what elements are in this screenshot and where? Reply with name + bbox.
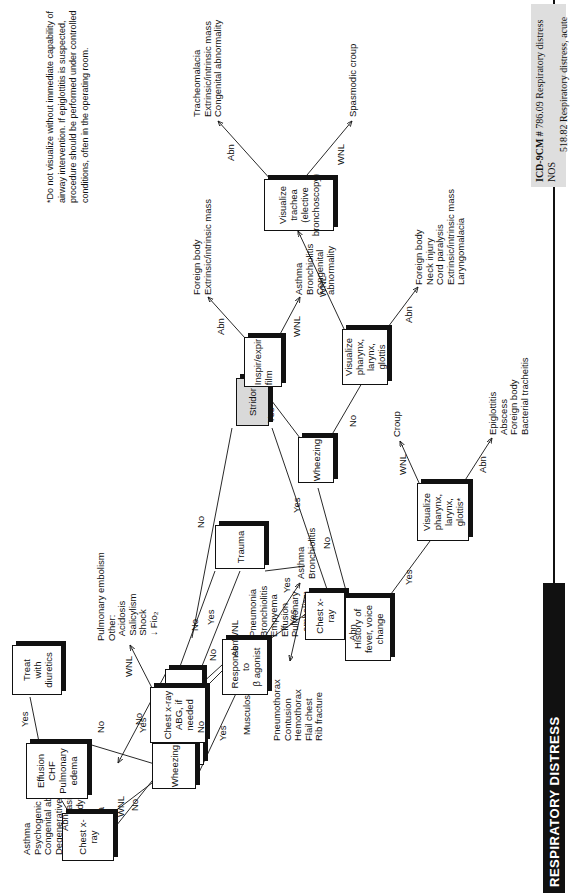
node-inspir-expir-label: Inspir/expir film [252,339,274,385]
edge-label-acute-yes: Yes [206,610,216,626]
leaf-cxr-trauma-abn-list: Pneumothorax Contusion Hemothorax Flail … [272,679,325,741]
node-wheezing-upper-label: Wheezing [169,745,180,787]
edge-label-cxr-upper-wnl: WNL [116,796,126,817]
node-treat-diuretics-label: Treat with diuretics [21,652,54,687]
node-visualize-plain-label: Visualize pharynx, larynx, glottis [343,332,387,382]
leaf-visualize-plain-abn-list: Foreign body Neck injury Cord paralysis … [414,189,467,285]
node-stridor-label: Stridor [247,388,258,416]
edge-label-trauma-yes: Yes [282,578,292,594]
edge-label-effusion-no: No [96,721,106,733]
edge-label-stridor-yes: Yes [292,498,302,514]
node-visualize-pharynx-star[interactable]: Visualize pharynx, larynx, glottis* [417,483,469,541]
edge-label-history-yes: Yes [404,570,414,586]
rotated-page-canvas: Stridor Acute onset Trauma Chest x-ray H… [0,0,575,893]
edge-label-cxr-upper-abn: Abn [60,814,70,831]
node-visualize-pharynx-plain[interactable]: Visualize pharynx, larynx, glottis [342,329,388,385]
node-chest-xray-trauma[interactable]: Chest x-ray [305,592,345,640]
edge-label-cxr-trauma-wnl: WNL [230,620,240,641]
edge-label-trachea-abn: Abn [226,144,236,161]
edge-label-beta-yes: Yes [288,610,298,626]
edge-label-visplain-abn: Abn [404,306,414,323]
edge-label-cxrabg-wnl: WNL [124,656,134,677]
node-chest-xray-trauma-label: Chest x-ray [314,595,336,637]
flowchart-canvas: Stridor Acute onset Trauma Chest x-ray H… [0,0,575,893]
node-wheezing-lower[interactable]: Wheezing [298,437,334,483]
node-visualize-star-label: Visualize pharynx, larynx, glottis* [421,486,465,538]
edge-label-visstar-wnl: WNL [398,454,408,475]
edge-label-wheezing-upper-no: No [130,799,140,811]
edge-label-beta-no: No [208,649,218,661]
node-visualize-trachea-label: Visualize trachea (elective bronchoscopy… [277,174,321,236]
node-effusion-label: Effusion CHF Pulmonary edema [35,748,79,793]
node-trauma[interactable]: Trauma [215,525,265,569]
node-chest-xray-abg[interactable]: Chest x-ray ABG, if needed [150,687,206,743]
edge-label-visplain-wnl: WNL [318,276,328,297]
edge-label-wheezing-upper-yes: Yes [218,726,228,742]
edge-label-inspir-abn: Abn [216,318,226,335]
node-wheezing-lower-label: Wheezing [311,439,322,481]
edge-label-visstar-abn: Abn [478,456,488,473]
node-trauma-label: Trauma [235,531,246,563]
leaf-visualize-star-wnl: Croup [392,411,403,437]
node-wheezing-upper[interactable]: Wheezing [152,743,196,789]
node-chest-xray-abg-label: Chest x-ray ABG, if needed [162,690,195,740]
node-effusion-chf-pulmonary-edema[interactable]: Effusion CHF Pulmonary edema [26,743,88,799]
edge-label-wheezing-lower-yes: Yes [266,408,276,424]
edge-label-stridor-no: No [196,516,206,528]
leaf-beta-yes-list: Asthma Bronchiolitis [296,528,317,579]
edge-label-effusion-yes: Yes [20,712,30,728]
leaf-trachea-abn-list: Tracheomalacia Extrinsic/intrinsic mass … [192,20,224,117]
node-inspir-expir-film[interactable]: Inspir/expir film [244,337,282,387]
edge-label-history-no: No [322,537,332,549]
edge-label-wheezing-lower-no: No [348,415,358,427]
leaf-trachea-wnl: Spasmodic croup [348,44,359,117]
node-chest-xray-upper-label: Chest x-ray [77,816,99,858]
edge-label-trauma-no: No [190,619,200,631]
node-treat-with-diuretics[interactable]: Treat with diuretics [12,645,62,695]
leaf-cxrabg-wnl-list: Pulmonary embolism Other: Acidosis Salic… [96,552,160,641]
edge-label-trachea-wnl: WNL [336,144,346,165]
leaf-inspir-abn-list: Foreign body Extrinsic/intrinsic mass [192,199,213,295]
leaf-visualize-star-abn-list: Epiglottitis Abscess Foreign body Bacter… [488,357,530,435]
edge-label-hlr-yes: Yes [138,718,148,734]
leaf-inspir-wnl-list: Asthma Bronchiolitis Congenital abnormal… [294,244,336,295]
edge-label-cxr-trauma-abn: Abn [348,624,358,641]
edge-label-inspir-wnl: WNL [292,316,302,337]
edge-label-cxrabg-abn: Abn [230,640,240,657]
edge-label-hlr-no: No [196,721,206,733]
node-visualize-trachea[interactable]: Visualize trachea (elective bronchoscopy… [264,179,334,231]
